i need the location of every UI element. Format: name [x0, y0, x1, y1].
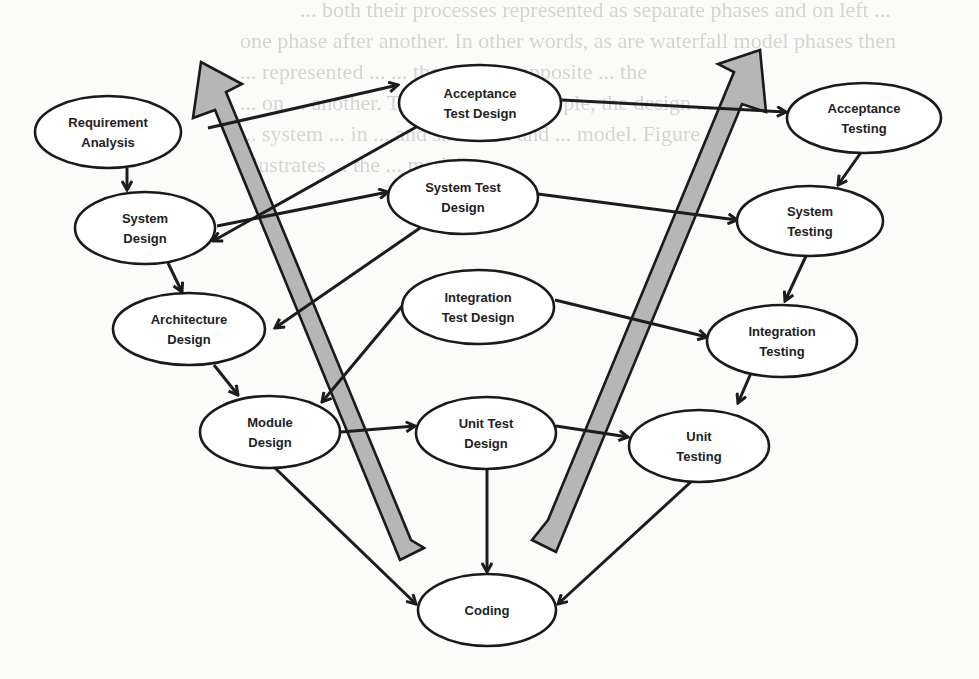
node-label: Design [464, 436, 507, 451]
node-label: Module [247, 415, 293, 430]
v-model-diagram: RequirementAnalysisSystemDesignArchitect… [0, 0, 979, 679]
node-label: Design [123, 231, 166, 246]
node-ut: UnitTesting [629, 410, 769, 482]
node-ellipse [388, 160, 538, 234]
node-atd: AcceptanceTest Design [399, 65, 561, 141]
node-ellipse [787, 83, 941, 153]
node-arch: ArchitectureDesign [113, 293, 265, 365]
node-label: System [787, 204, 833, 219]
node-ellipse [200, 396, 340, 468]
node-ellipse [629, 410, 769, 482]
node-label: Acceptance [828, 101, 901, 116]
node-ellipse [35, 96, 181, 168]
node-std: System TestDesign [388, 160, 538, 234]
node-itd: IntegrationTest Design [402, 270, 554, 344]
node-label: Acceptance [444, 86, 517, 101]
node-label: Testing [676, 449, 721, 464]
node-ellipse [113, 293, 265, 365]
node-ellipse [402, 270, 554, 344]
node-label: Analysis [81, 135, 134, 150]
node-mod: ModuleDesign [200, 396, 340, 468]
node-at: AcceptanceTesting [787, 83, 941, 153]
node-label: System Test [425, 180, 501, 195]
node-label: Design [441, 200, 484, 215]
edge-sysd-to-std [217, 192, 388, 226]
node-sysd: SystemDesign [75, 192, 215, 264]
node-it: IntegrationTesting [707, 305, 857, 377]
node-label: Testing [787, 224, 832, 239]
edge-req-to-atd [208, 85, 398, 128]
node-label: System [122, 211, 168, 226]
node-label: Architecture [151, 312, 228, 327]
edge-sysd-to-arch [168, 263, 182, 292]
node-label: Testing [759, 344, 804, 359]
node-ellipse [399, 65, 561, 141]
node-label: Integration [444, 290, 511, 305]
node-label: Design [167, 332, 210, 347]
node-label: Requirement [68, 115, 148, 130]
edge-arch-to-mod [214, 365, 238, 395]
edge-at-to-st [838, 151, 862, 185]
node-label: Design [248, 435, 291, 450]
node-code: Coding [418, 574, 556, 646]
node-ellipse [737, 186, 883, 256]
node-label: Unit Test [459, 416, 514, 431]
node-label: Test Design [442, 310, 515, 325]
node-ellipse [75, 192, 215, 264]
node-label: Coding [465, 603, 510, 618]
node-label: Test Design [444, 106, 517, 121]
edge-st-to-it [785, 256, 806, 301]
node-label: Unit [686, 429, 712, 444]
node-label: Integration [748, 324, 815, 339]
node-utd: Unit TestDesign [416, 397, 556, 469]
node-ellipse [707, 305, 857, 377]
edge-std-to-st [538, 194, 737, 220]
node-req: RequirementAnalysis [35, 96, 181, 168]
edge-it-to-ut [738, 373, 751, 403]
node-st: SystemTesting [737, 186, 883, 256]
node-ellipse [416, 397, 556, 469]
node-label: Testing [841, 121, 886, 136]
